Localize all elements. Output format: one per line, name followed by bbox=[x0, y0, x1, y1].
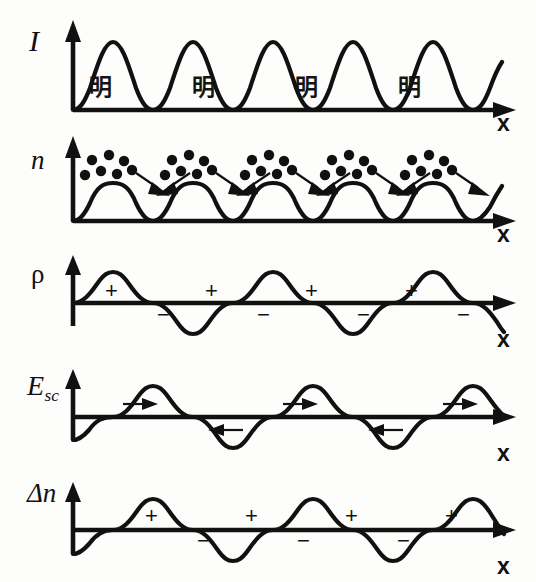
diffusion-arrow-right bbox=[456, 173, 490, 196]
photorefractive-diagram: I x 明 明 明 明 n x bbox=[0, 0, 536, 582]
carrier-dot-cluster bbox=[400, 150, 457, 180]
carrier-dot-cluster bbox=[320, 150, 377, 180]
intensity-curve bbox=[73, 42, 502, 110]
carrier-dot-cluster bbox=[240, 150, 297, 180]
space-charge-field-plot bbox=[0, 360, 536, 472]
carrier-dot-cluster bbox=[80, 150, 137, 180]
panel-space-charge-density: ρ x + − + − + − + − bbox=[0, 248, 536, 360]
y-axis-arrowhead bbox=[65, 255, 81, 275]
panel-space-charge-field: Esc x bbox=[0, 360, 536, 472]
panel-carrier-density: n x bbox=[0, 126, 536, 248]
x-axis-arrowhead bbox=[493, 213, 516, 229]
carrier-dot-cluster bbox=[160, 150, 217, 180]
panel-index-change: Δn x + − + − + − + bbox=[0, 472, 536, 582]
y-axis-arrowhead bbox=[65, 20, 81, 42]
carrier-density-curve bbox=[73, 183, 502, 221]
y-axis-arrowhead bbox=[65, 369, 81, 389]
intensity-plot bbox=[0, 0, 536, 135]
y-axis-arrowhead bbox=[65, 136, 81, 158]
panel-intensity: I x 明 明 明 明 bbox=[0, 0, 536, 135]
x-axis-arrowhead bbox=[493, 102, 516, 118]
index-change-plot bbox=[0, 472, 536, 582]
carrier-density-plot bbox=[0, 126, 536, 248]
space-charge-density-plot bbox=[0, 248, 536, 360]
y-axis-arrowhead bbox=[65, 482, 81, 502]
x-axis-arrowhead bbox=[493, 295, 516, 311]
